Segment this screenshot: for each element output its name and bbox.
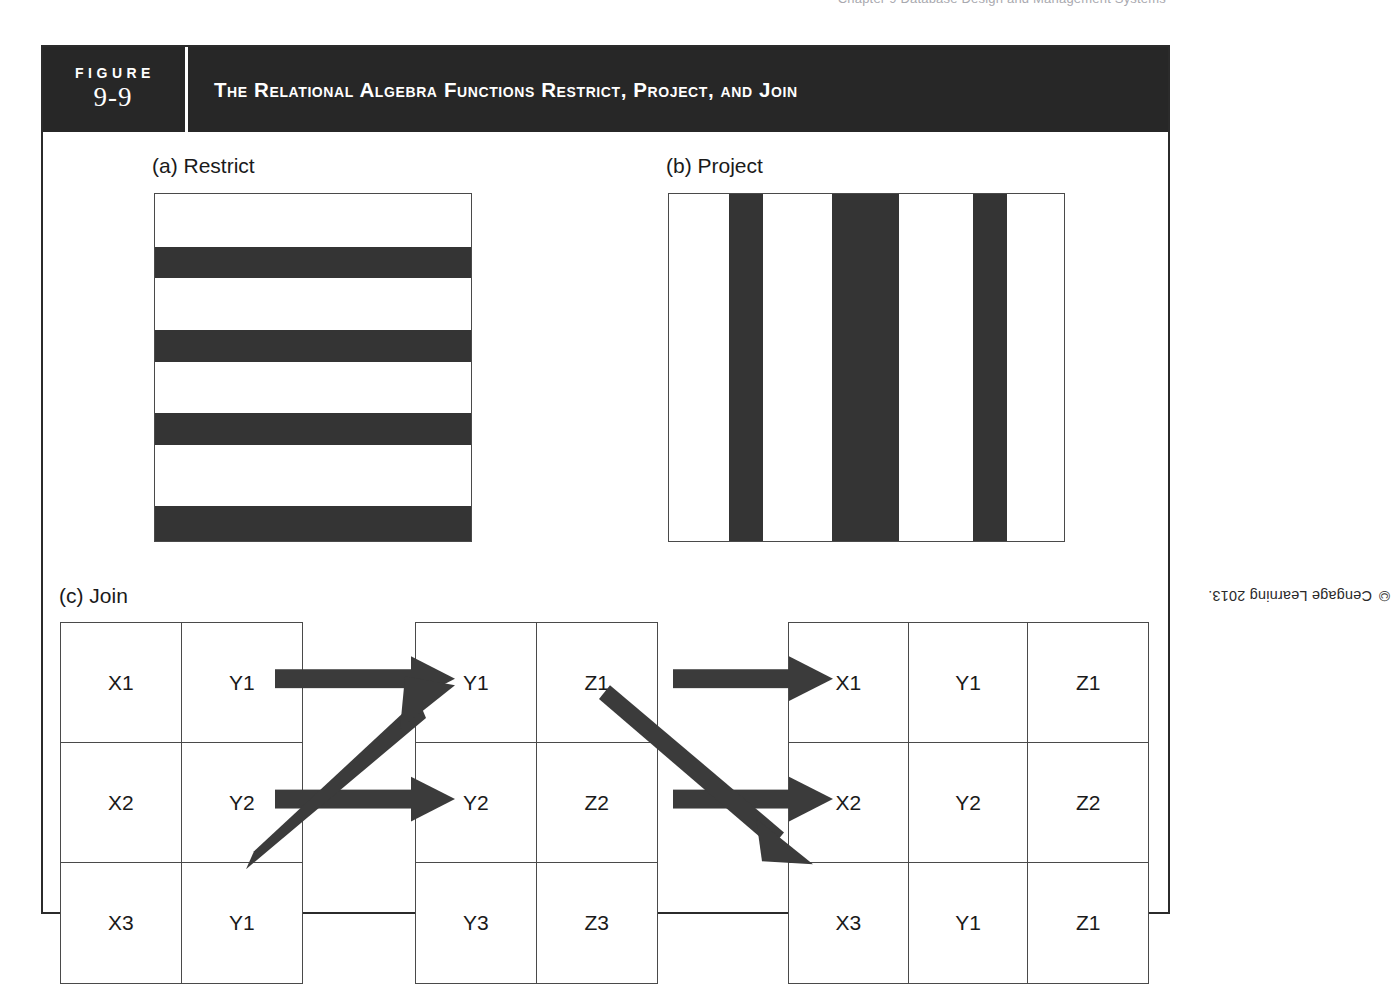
panel-label-project: (b) Project <box>666 154 763 178</box>
join-result-table: X1 Y1 Z1 X2 Y2 Z2 X3 Y1 Z1 <box>788 622 1149 984</box>
table-cell: Y3 <box>416 863 537 983</box>
table-cell: Y1 <box>182 623 303 743</box>
join-left-table: X1 Y1 X2 Y2 X3 Y1 <box>60 622 303 984</box>
restrict-stripe-3 <box>155 413 471 446</box>
table-cell: Z2 <box>537 743 658 863</box>
project-stripe-3 <box>973 194 1007 541</box>
join-right-table: Y1 Z1 Y2 Z2 Y3 Z3 <box>415 622 658 984</box>
table-cell: X1 <box>61 623 182 743</box>
figure-word-label: FIGURE <box>71 66 155 81</box>
table-cell: Y1 <box>182 863 303 983</box>
table-cell: Z1 <box>1028 623 1148 743</box>
table-cell: X2 <box>61 743 182 863</box>
table-cell: X2 <box>789 743 909 863</box>
figure-number: 9-9 <box>94 82 133 113</box>
figure-number-block: FIGURE 9-9 <box>43 47 188 132</box>
restrict-diagram <box>154 193 472 542</box>
table-cell: Y2 <box>909 743 1029 863</box>
panel-label-restrict: (a) Restrict <box>152 154 255 178</box>
restrict-stripe-4 <box>155 506 471 541</box>
figure-header-bar: FIGURE 9-9 The Relational Algebra Functi… <box>43 47 1168 132</box>
project-stripe-2 <box>832 194 899 541</box>
figure-title: The Relational Algebra Functions Restric… <box>188 47 1168 132</box>
table-cell: Z3 <box>537 863 658 983</box>
table-cell: Y1 <box>416 623 537 743</box>
table-cell: Z1 <box>537 623 658 743</box>
table-cell: Y2 <box>182 743 303 863</box>
table-cell: Z2 <box>1028 743 1148 863</box>
project-diagram <box>668 193 1065 542</box>
copyright-notice: © Cengage Learning 2013. <box>1208 588 1392 604</box>
running-header: Chapter 9 Database Design and Management… <box>838 0 1166 6</box>
table-cell: Z1 <box>1028 863 1148 983</box>
project-stripe-1 <box>729 194 763 541</box>
table-cell: X3 <box>789 863 909 983</box>
figure-frame: FIGURE 9-9 The Relational Algebra Functi… <box>41 45 1170 914</box>
table-cell: Y1 <box>909 863 1029 983</box>
table-cell: X1 <box>789 623 909 743</box>
table-cell: X3 <box>61 863 182 983</box>
restrict-stripe-1 <box>155 247 471 278</box>
restrict-stripe-2 <box>155 330 471 362</box>
figure-body: (a) Restrict (b) Project (c) Join X1 Y1 … <box>43 132 1168 912</box>
table-cell: Y2 <box>416 743 537 863</box>
table-cell: Y1 <box>909 623 1029 743</box>
panel-label-join: (c) Join <box>59 584 128 608</box>
